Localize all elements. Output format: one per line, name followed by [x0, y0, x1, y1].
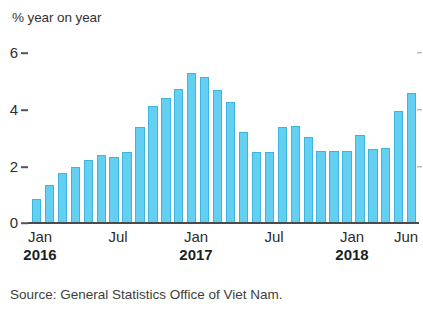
- bar: [291, 126, 300, 223]
- bar: [407, 93, 416, 223]
- bar-slot: [134, 46, 147, 223]
- bar: [174, 89, 183, 223]
- bar-slot: [108, 46, 121, 223]
- x-tick-month: Jan: [335, 228, 368, 245]
- bar: [278, 127, 287, 223]
- x-tick-year: 2016: [23, 245, 56, 264]
- x-tick-month: Jan: [179, 228, 212, 245]
- x-tick-jul-2016: Jul: [108, 228, 127, 245]
- plot-area: [30, 46, 418, 223]
- bar: [200, 77, 209, 223]
- x-tick-year: 2018: [335, 245, 368, 264]
- bar: [135, 127, 144, 223]
- y-tick-label-6: 6: [10, 45, 18, 60]
- y-tick-mark-6: [21, 52, 28, 54]
- bar: [381, 148, 390, 223]
- bar-slot: [211, 46, 224, 223]
- bar-slot: [302, 46, 315, 223]
- bar-slot: [379, 46, 392, 223]
- bar-slot: [353, 46, 366, 223]
- bar-slot: [159, 46, 172, 223]
- bar-slot: [95, 46, 108, 223]
- y-tick-label-2: 2: [10, 159, 18, 174]
- bar: [342, 151, 351, 223]
- chart-figure: % year on year 6 4 2 0 Jan 2016 Jul Jan …: [0, 0, 423, 309]
- bar-slot: [224, 46, 237, 223]
- x-tick-jul-2017: Jul: [264, 228, 283, 245]
- bar: [213, 90, 222, 223]
- x-tick-month: Jul: [108, 228, 127, 245]
- bar: [304, 137, 313, 223]
- bar-slot: [43, 46, 56, 223]
- y-tick-mark-2: [21, 166, 28, 168]
- bar: [394, 111, 403, 223]
- x-axis-baseline: [28, 222, 419, 224]
- bar-slot: [82, 46, 95, 223]
- bar-slot: [30, 46, 43, 223]
- bar-series: [30, 46, 418, 223]
- bar-slot: [392, 46, 405, 223]
- bar: [71, 167, 80, 223]
- bar: [161, 98, 170, 223]
- x-axis-tick-group: Jan 2016 Jul Jan 2017 Jul Jan 2018 Jun: [0, 228, 423, 276]
- bar-slot: [276, 46, 289, 223]
- bar: [148, 106, 157, 223]
- bar: [122, 152, 131, 223]
- bar: [109, 157, 118, 223]
- bar: [58, 173, 67, 223]
- x-tick-month: Jan: [23, 228, 56, 245]
- y-axis-title: % year on year: [12, 10, 101, 25]
- bar-slot: [198, 46, 211, 223]
- x-tick-year: 2017: [179, 245, 212, 264]
- bar: [32, 199, 41, 223]
- bar-slot: [341, 46, 354, 223]
- y-tick-label-4: 4: [10, 102, 18, 117]
- x-tick-jan-2017: Jan 2017: [179, 228, 212, 264]
- x-tick-jan-2016: Jan 2016: [23, 228, 56, 264]
- bar-slot: [172, 46, 185, 223]
- bar-slot: [56, 46, 69, 223]
- x-tick-month: Jul: [264, 228, 283, 245]
- bar-slot: [366, 46, 379, 223]
- bar: [329, 151, 338, 223]
- source-note: Source: General Statistics Office of Vie…: [10, 287, 283, 302]
- bar-slot: [289, 46, 302, 223]
- bar-slot: [69, 46, 82, 223]
- bar-slot: [250, 46, 263, 223]
- bar: [45, 185, 54, 223]
- bar-slot: [263, 46, 276, 223]
- bar: [355, 135, 364, 224]
- bar: [265, 152, 274, 223]
- bar-slot: [185, 46, 198, 223]
- x-tick-month: Jun: [394, 228, 418, 245]
- x-tick-jan-2018: Jan 2018: [335, 228, 368, 264]
- x-tick-jun-2018: Jun: [394, 228, 418, 245]
- bar-slot: [237, 46, 250, 223]
- bar: [368, 149, 377, 223]
- bar: [316, 151, 325, 223]
- bar: [226, 102, 235, 223]
- bar-slot: [315, 46, 328, 223]
- bar: [97, 155, 106, 223]
- bar-slot: [146, 46, 159, 223]
- bar-slot: [405, 46, 418, 223]
- y-tick-mark-0: [21, 222, 28, 224]
- y-tick-mark-4: [21, 109, 28, 111]
- bar-slot: [121, 46, 134, 223]
- bar: [252, 152, 261, 223]
- bar: [84, 160, 93, 223]
- bar: [187, 73, 196, 223]
- bar-slot: [328, 46, 341, 223]
- bar: [239, 132, 248, 223]
